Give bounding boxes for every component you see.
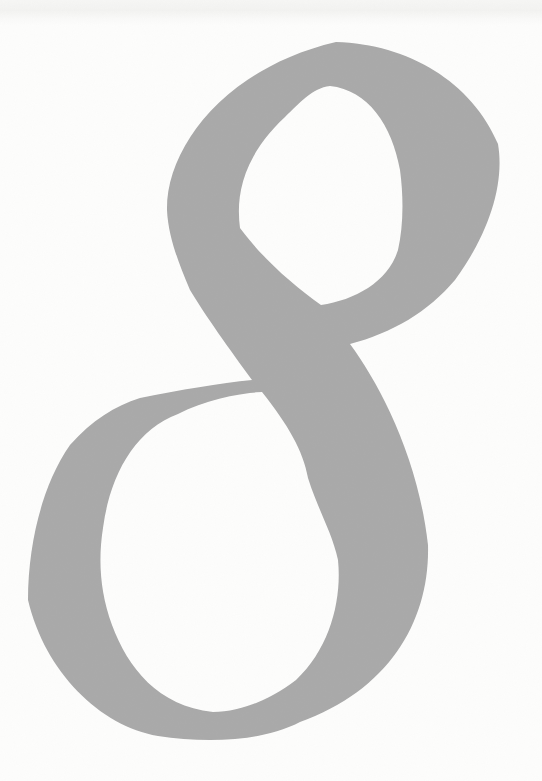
scan-grain-overlay bbox=[0, 0, 542, 781]
scanned-page: 8 bbox=[0, 0, 542, 781]
numeral-8-glyph: 8 bbox=[0, 0, 542, 781]
numeral-8-svg bbox=[0, 0, 542, 781]
